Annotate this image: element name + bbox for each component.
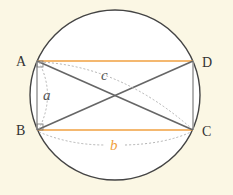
point-label-c: C	[202, 124, 211, 139]
point-label-b: B	[16, 123, 25, 138]
point-label-d: D	[202, 55, 212, 70]
variable-label-a: a	[43, 87, 51, 103]
rectangle-in-circle-diagram: A B C D a c b	[0, 0, 233, 195]
variable-label-b: b	[110, 137, 118, 153]
point-label-a: A	[16, 54, 27, 69]
variable-label-c: c	[101, 67, 108, 83]
